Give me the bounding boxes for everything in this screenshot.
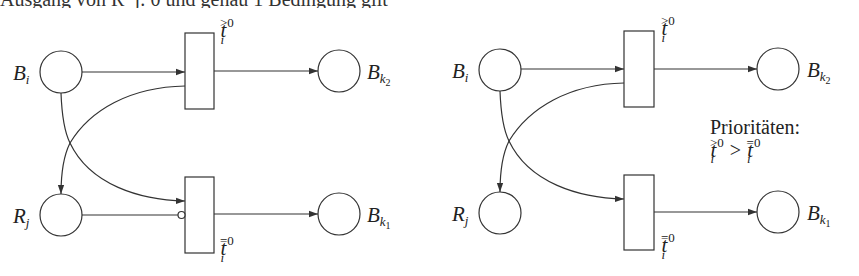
arc-rj-to-upper: [61, 86, 185, 194]
place-rj: [40, 194, 82, 236]
svg-text:Rj: Rj: [12, 204, 30, 230]
svg-text:ti>0: ti>0: [220, 15, 234, 47]
place-bk1: [318, 193, 360, 235]
svg-text:Bk2: Bk2: [807, 58, 831, 86]
svg-text:Bk1: Bk1: [367, 203, 391, 231]
arc-rj-to-upper: [500, 83, 624, 192]
svg-text:ti>0: ti>0: [661, 13, 675, 45]
petri-net-figure: Bi Rj Bk2 Bk1 ti>0 ti=0 Bi Rj Bk2 Bk1 ti…: [0, 0, 859, 276]
svg-text:Bk2: Bk2: [367, 60, 391, 88]
transition-upper: [624, 31, 654, 107]
transition-lower: [185, 177, 214, 253]
place-bi: [479, 49, 521, 91]
place-bk1: [757, 191, 799, 233]
arc-bi-to-lower: [61, 93, 185, 201]
inhibitor-circle-icon: [178, 212, 185, 219]
svg-text:Bi: Bi: [452, 59, 469, 85]
arc-bi-to-lower: [500, 91, 624, 199]
place-bk2: [757, 48, 799, 90]
priorities-formula: ti>0>ti=0: [710, 135, 760, 166]
transition-lower: [624, 175, 654, 250]
diagram-left: [40, 33, 360, 253]
transition-upper: [185, 33, 214, 109]
svg-text:ti=0: ti=0: [220, 233, 234, 265]
svg-text:Bi: Bi: [13, 61, 30, 87]
place-bk2: [318, 50, 360, 92]
place-bi: [40, 51, 82, 93]
svg-text:ti=0: ti=0: [661, 230, 675, 262]
svg-text:Bk1: Bk1: [807, 201, 831, 229]
place-rj: [479, 192, 521, 234]
svg-text:Rj: Rj: [451, 202, 469, 228]
